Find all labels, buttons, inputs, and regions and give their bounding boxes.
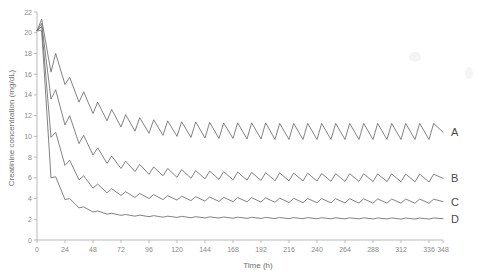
creatinine-concentration-chart: 0246810121416182022 02448729612014416819…: [0, 0, 488, 278]
series-label-c: C: [451, 196, 459, 208]
x-tick-label: 192: [255, 246, 267, 253]
x-tick-label: 216: [283, 246, 295, 253]
x-axis-ticks: 0244872961201441681922162402642883123363…: [35, 240, 449, 253]
y-tick-label: 18: [24, 50, 32, 57]
y-tick-label: 2: [28, 216, 32, 223]
x-axis-title: Time (h): [243, 261, 273, 270]
x-tick-label: 144: [199, 246, 211, 253]
chart-canvas: 0246810121416182022 02448729612014416819…: [0, 0, 488, 278]
x-tick-label: 336: [423, 246, 435, 253]
x-tick-label: 72: [117, 246, 125, 253]
y-tick-label: 4: [28, 195, 32, 202]
x-tick-label: 348: [437, 246, 449, 253]
series-label-a: A: [451, 126, 459, 138]
x-tick-label: 312: [395, 246, 407, 253]
x-tick-label: 264: [339, 246, 351, 253]
x-tick-label: 96: [145, 246, 153, 253]
x-tick-label: 120: [171, 246, 183, 253]
x-tick-label: 168: [227, 246, 239, 253]
series-labels: ABCD: [451, 126, 459, 224]
series-label-b: B: [451, 172, 458, 184]
x-tick-label: 48: [89, 246, 97, 253]
y-tick-label: 22: [24, 9, 32, 16]
x-tick-label: 0: [35, 246, 39, 253]
y-tick-label: 6: [28, 174, 32, 181]
y-tick-label: 16: [24, 71, 32, 78]
curve-c: [37, 27, 443, 204]
y-tick-label: 10: [24, 133, 32, 140]
y-axis-ticks: 0246810121416182022: [24, 9, 37, 244]
curve-a: [37, 19, 443, 139]
x-tick-label: 288: [367, 246, 379, 253]
y-axis-title: Creatinine concentration (mg/dL): [7, 69, 16, 186]
scan-artifacts: [409, 52, 473, 79]
y-tick-label: 0: [28, 237, 32, 244]
y-tick-label: 12: [24, 112, 32, 119]
y-tick-label: 20: [24, 29, 32, 36]
data-curves: [37, 19, 443, 219]
x-tick-label: 24: [61, 246, 69, 253]
y-tick-label: 8: [28, 154, 32, 161]
x-tick-label: 240: [311, 246, 323, 253]
curve-d: [37, 31, 443, 219]
y-tick-label: 14: [24, 91, 32, 98]
series-label-d: D: [451, 213, 459, 225]
